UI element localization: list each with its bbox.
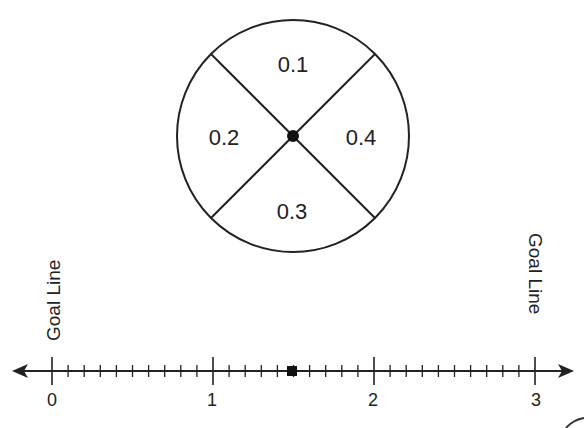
goal-line-label-right: Goal Line	[525, 233, 546, 314]
goal-line-label-left: Goal Line	[43, 260, 64, 341]
section-label-left: 0.2	[209, 125, 240, 150]
position-marker	[287, 366, 297, 376]
tick-label-3: 3	[531, 390, 541, 410]
number-line: 0 1 2 3 Goal Line Goal Line	[12, 233, 574, 410]
tick-label-1: 1	[207, 390, 217, 410]
section-label-top: 0.1	[278, 52, 309, 77]
corner-decoration	[566, 418, 584, 428]
section-label-bottom: 0.3	[277, 199, 308, 224]
spinner-center-dot	[287, 130, 299, 142]
diagram-canvas: 0.1 0.2 0.3 0.4 0 1 2 3 Goal Line Goal L…	[0, 0, 584, 428]
spinner: 0.1 0.2 0.3 0.4	[177, 20, 409, 252]
tick-label-2: 2	[368, 390, 378, 410]
section-label-right: 0.4	[346, 125, 377, 150]
tick-label-0: 0	[47, 390, 57, 410]
